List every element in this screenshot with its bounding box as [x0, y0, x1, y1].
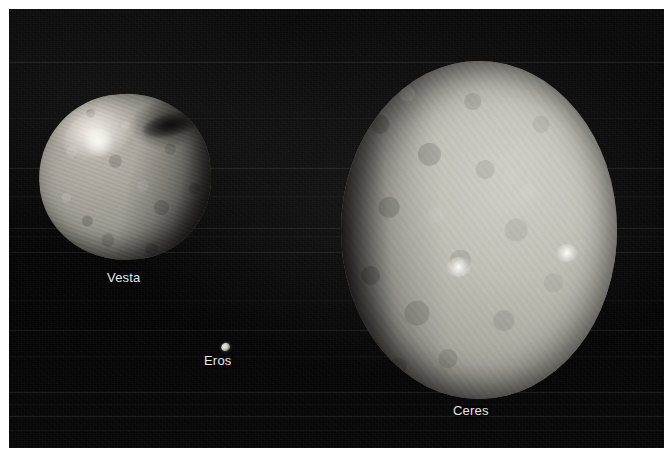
image-plate: Vesta Eros Ceres	[9, 9, 664, 448]
label-ceres: Ceres	[453, 404, 489, 417]
label-eros: Eros	[204, 354, 232, 367]
frame-margin-top	[0, 0, 672, 9]
frame-margin-left	[0, 0, 9, 457]
frame-margin-right	[664, 0, 672, 457]
frame-margin-bottom	[0, 448, 672, 457]
ceres-limb-darkening	[341, 61, 617, 399]
vesta-terminator-shadow	[33, 88, 216, 266]
dwarf-planet-ceres	[341, 61, 617, 399]
asteroid-vesta	[33, 88, 216, 266]
asteroid-size-comparison-figure: Vesta Eros Ceres	[0, 0, 672, 457]
label-vesta: Vesta	[107, 271, 141, 284]
